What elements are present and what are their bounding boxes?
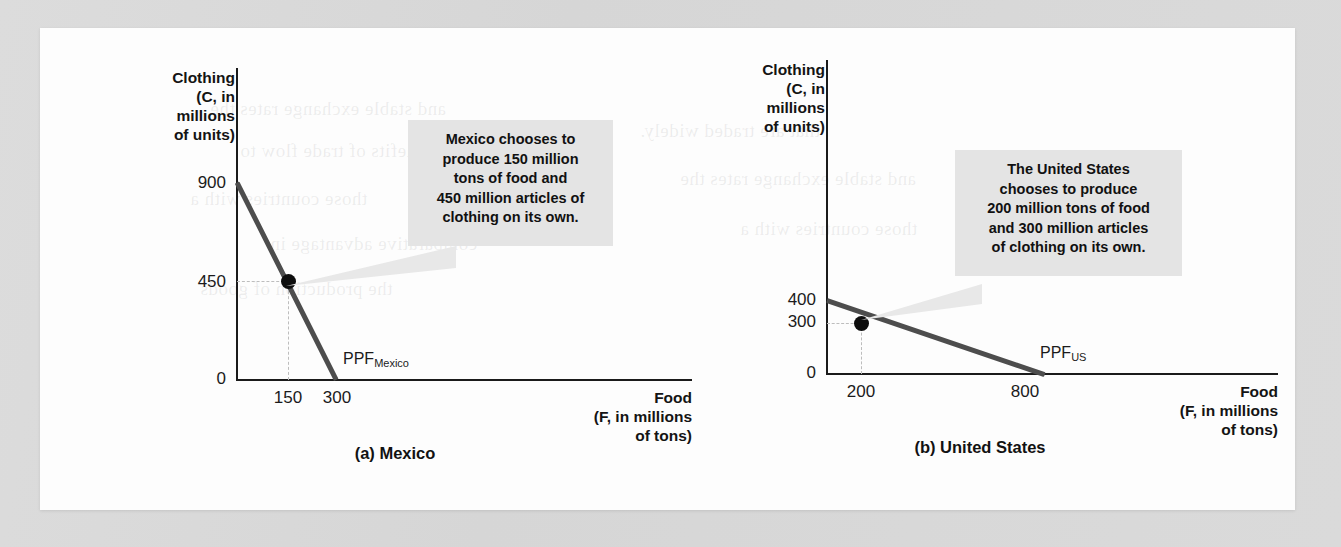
chart-panel-mexico: Clothing (C, in millions of units) 900 4… xyxy=(40,28,660,510)
ppf-label-mexico: PPFMexico xyxy=(343,350,409,368)
callout-line: 450 million articles of xyxy=(420,189,601,209)
callout-line: produce 150 million xyxy=(420,150,601,170)
callout-line: Mexico chooses to xyxy=(420,130,601,150)
x-tick-label-300: 300 xyxy=(307,388,367,408)
x-tick-label-200: 200 xyxy=(831,382,891,402)
x-axis-title-line: Food xyxy=(1078,382,1278,401)
production-point-mexico xyxy=(281,274,296,289)
y-axis-title-line: millions xyxy=(670,98,825,117)
callout-mexico: Mexico chooses to produce 150 million to… xyxy=(408,120,613,246)
y-axis-title-line: of units) xyxy=(670,117,825,136)
chart-panel-united-states: Clothing (C, in millions of units) 400 3… xyxy=(660,28,1295,510)
ppf-curve-us xyxy=(826,298,1046,377)
callout-line: of clothing on its own. xyxy=(967,238,1170,258)
callout-line: chooses to produce xyxy=(967,180,1170,200)
x-axis-title-line: of tons) xyxy=(1078,420,1278,439)
y-axis-title: Clothing (C, in millions of units) xyxy=(670,60,825,136)
x-axis-title-line: (F, in millions xyxy=(1078,401,1278,420)
y-tick-label-450: 450 xyxy=(160,272,226,292)
y-axis-title-line: millions xyxy=(80,106,235,125)
callout-line: and 300 million articles xyxy=(967,219,1170,239)
callout-line: clothing on its own. xyxy=(420,208,601,228)
y-axis-title-line: (C, in xyxy=(80,87,235,106)
callout-line: 200 million tons of food xyxy=(967,199,1170,219)
guide-line-vertical xyxy=(288,281,289,380)
x-axis-title: Food (F, in millions of tons) xyxy=(1078,382,1278,439)
y-tick-label-900: 900 xyxy=(160,173,226,193)
panel-caption-mexico: (a) Mexico xyxy=(305,444,485,463)
ppf-label-subscript: US xyxy=(1071,351,1086,363)
x-tick-label-800: 800 xyxy=(995,382,1055,402)
figure-card: and stable exchange rates the benefits o… xyxy=(40,28,1295,510)
y-axis-title-line: Clothing xyxy=(670,60,825,79)
ppf-label-text: PPF xyxy=(1040,344,1071,361)
y-tick-label-400: 400 xyxy=(750,290,816,310)
y-axis-title-line: of units) xyxy=(80,125,235,144)
y-tick-label-0: 0 xyxy=(160,369,226,389)
y-tick-label-300: 300 xyxy=(750,312,816,332)
y-axis-title-line: (C, in xyxy=(670,79,825,98)
panel-caption-us: (b) United States xyxy=(860,438,1100,457)
x-axis-line xyxy=(826,373,1278,375)
callout-us: The United States chooses to produce 200… xyxy=(955,150,1182,276)
callout-line: The United States xyxy=(967,160,1170,180)
production-point-us xyxy=(854,316,869,331)
ppf-label-text: PPF xyxy=(343,350,374,367)
y-tick-label-0: 0 xyxy=(750,363,816,383)
ppf-label-subscript: Mexico xyxy=(374,357,409,369)
y-axis-title-line: Clothing xyxy=(80,68,235,87)
callout-pointer-mexico xyxy=(280,246,460,316)
ppf-label-us: PPFUS xyxy=(1040,344,1086,362)
y-axis-line xyxy=(826,60,828,375)
x-axis-line xyxy=(236,379,692,381)
y-axis-line xyxy=(236,68,238,381)
callout-line: tons of food and xyxy=(420,169,601,189)
y-axis-title: Clothing (C, in millions of units) xyxy=(80,68,235,144)
